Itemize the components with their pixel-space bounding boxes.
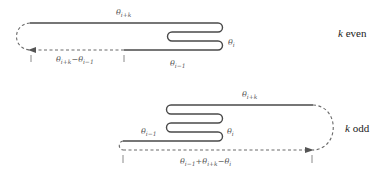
case-word: odd — [353, 122, 370, 134]
label-theta-i-odd: θi — [227, 128, 234, 137]
label-subscript: i+k — [247, 93, 258, 100]
fold-diagram: θi+k θi θi−1 θi+k−θi−1 k even θi+k θi θi… — [0, 0, 387, 175]
label-subscript: i+k — [61, 58, 72, 65]
case-word: even — [346, 27, 367, 39]
case-variable: k — [345, 122, 350, 134]
label-subscript: i+k — [121, 11, 132, 18]
label-subscript: i−1 — [146, 130, 157, 137]
label-theta-i-minus-1-odd: θi−1 — [141, 128, 157, 137]
case-variable: k — [338, 27, 343, 39]
label-theta-i-minus-1-even: θi−1 — [170, 60, 186, 69]
case-label-odd: k odd — [345, 123, 369, 134]
dashed-loop-left-odd — [119, 141, 123, 150]
label-theta-i-plus-k-even: θi+k — [116, 9, 131, 18]
label-dashed-span-even: θi+k−θi−1 — [56, 56, 94, 65]
label-theta-i-even: θi — [228, 39, 235, 48]
k-even-diagram — [17, 23, 223, 62]
label-subscript: i−1 — [83, 58, 94, 65]
dashed-loop-even — [17, 23, 31, 50]
label-subscript: i−1 — [175, 62, 186, 69]
dashed-loop-right-odd — [313, 105, 333, 150]
diagram-graphics — [0, 0, 387, 175]
label-subscript: i+k — [207, 160, 218, 167]
folded-path-even — [30, 23, 223, 50]
arrowhead-left-icon — [28, 47, 36, 53]
arrowhead-right-icon — [305, 147, 314, 153]
case-label-even: k even — [338, 28, 366, 39]
label-subscript: i — [229, 160, 231, 167]
label-dashed-span-odd: θi−1+θi+k−θi — [180, 158, 231, 167]
label-subscript: i — [232, 130, 234, 137]
label-theta-i-plus-k-odd: θi+k — [242, 91, 257, 100]
label-subscript: i−1 — [185, 160, 196, 167]
label-subscript: i — [233, 41, 235, 48]
